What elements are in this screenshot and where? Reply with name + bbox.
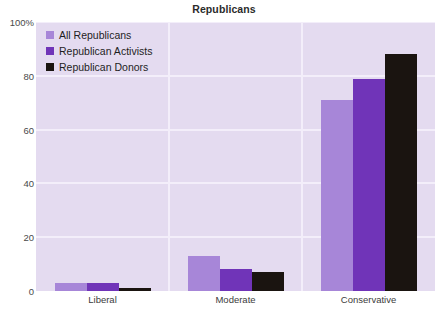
- x-axis-tick-label: Moderate: [215, 294, 255, 305]
- x-axis: LiberalModerateConservative: [36, 294, 435, 314]
- legend-item: Republican Donors: [46, 60, 152, 74]
- legend-item-label: Republican Activists: [59, 44, 152, 58]
- bar-chart: Republicans 020406080100% LiberalModerat…: [0, 0, 448, 327]
- gridline-vertical: [301, 22, 303, 291]
- bar: [321, 100, 353, 291]
- y-axis-tick-label: 0: [0, 286, 34, 297]
- y-axis: 020406080100%: [0, 22, 34, 291]
- bar: [119, 288, 151, 291]
- gridline-horizontal: [36, 75, 435, 77]
- legend-item-label: All Republicans: [59, 28, 131, 42]
- gridline-horizontal: [36, 22, 435, 23]
- legend-item: All Republicans: [46, 28, 152, 42]
- chart-title: Republicans: [0, 3, 448, 15]
- bar: [252, 272, 284, 291]
- legend-swatch-icon: [46, 47, 54, 55]
- bar: [87, 283, 119, 291]
- legend-item-label: Republican Donors: [59, 60, 148, 74]
- y-axis-tick-label: 60: [0, 124, 34, 135]
- y-axis-tick-label: 100%: [0, 17, 34, 28]
- legend-swatch-icon: [46, 63, 54, 71]
- y-axis-tick-label: 40: [0, 178, 34, 189]
- y-axis-tick-label: 20: [0, 232, 34, 243]
- y-axis-tick-label: 80: [0, 70, 34, 81]
- legend-swatch-icon: [46, 31, 54, 39]
- bar: [353, 79, 385, 292]
- chart-legend: All RepublicansRepublican ActivistsRepub…: [46, 28, 152, 74]
- bar: [55, 283, 87, 291]
- x-axis-tick-label: Liberal: [88, 294, 117, 305]
- bar: [188, 256, 220, 291]
- legend-item: Republican Activists: [46, 44, 152, 58]
- bar: [385, 54, 417, 291]
- x-axis-tick-label: Conservative: [341, 294, 396, 305]
- gridline-vertical: [168, 22, 170, 291]
- bar: [220, 269, 252, 291]
